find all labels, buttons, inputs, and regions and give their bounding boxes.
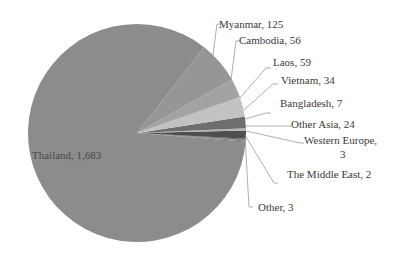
leader-middle-east [245,135,278,183]
label-cambodia: Cambodia, 56 [239,34,301,46]
leader-bangladesh [245,113,271,119]
label-western-europe-line2: 3 [340,148,346,160]
label-other: Other, 3 [258,201,294,213]
leader-cambodia [231,41,240,80]
label-myanmar: Myanmar, 125 [219,18,284,30]
pie-slices [28,24,246,242]
label-bangladesh: Bangladesh, 7 [280,97,343,109]
label-middle-east: The Middle East, 2 [287,168,371,180]
label-western-europe-line1: Western Europe, [304,134,377,146]
leader-other [245,137,253,207]
label-thailand: Thailand, 1,683 [32,149,102,161]
leader-western-europe [246,131,304,143]
pie-chart: Thailand, 1,683 Myanmar, 125 Cambodia, 5… [0,0,403,255]
label-vietnam: Vietnam, 34 [281,74,335,86]
leader-laos [240,68,271,98]
label-laos: Laos, 59 [273,56,311,68]
label-other-asia: Other Asia, 24 [291,118,355,130]
